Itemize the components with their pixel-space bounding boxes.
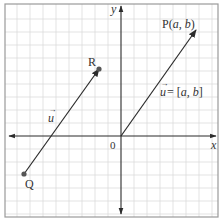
point-r-label: R <box>88 55 96 69</box>
origin-label: 0 <box>110 139 116 151</box>
vector-op-label: u → = [a, b] <box>160 79 203 99</box>
vector-op <box>121 30 196 136</box>
x-axis-label: x <box>210 138 217 152</box>
vector-qr <box>24 69 99 174</box>
y-axis-label: y <box>110 2 117 16</box>
svg-text:= [a, b]: = [a, b] <box>167 85 203 99</box>
vector-diagram: y x 0 P(a, b) u → = [a, b] R Q u → <box>0 0 223 223</box>
point-r <box>96 66 101 71</box>
point-q-label: Q <box>25 177 34 191</box>
grid <box>5 4 218 217</box>
vector-qr-label: u → <box>48 105 57 125</box>
point-p-label: P(a, b) <box>162 17 195 31</box>
point-q <box>21 171 26 176</box>
svg-text:→: → <box>49 105 57 114</box>
